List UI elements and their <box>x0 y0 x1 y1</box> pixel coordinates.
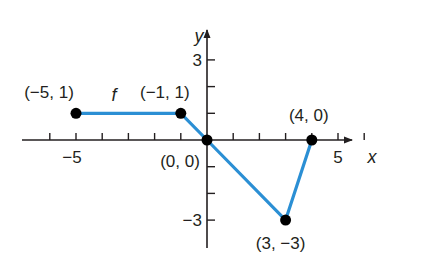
data-point <box>280 215 291 226</box>
x-axis-label: x <box>367 147 378 167</box>
data-point <box>175 108 186 119</box>
data-point <box>306 135 317 146</box>
y-axis-label: y <box>193 26 205 46</box>
data-point <box>71 108 82 119</box>
point-label: (4, 0) <box>289 106 329 125</box>
function-label: f <box>111 85 118 105</box>
y-tick-label: −3 <box>183 211 202 230</box>
x-tick-label: 5 <box>333 148 342 167</box>
data-point <box>202 135 213 146</box>
point-label: (0, 0) <box>160 152 200 171</box>
point-label: (−5, 1) <box>24 83 74 102</box>
y-tick-label: 3 <box>193 51 202 70</box>
point-label: (−1, 1) <box>140 83 190 102</box>
x-tick-label: −5 <box>62 148 81 167</box>
point-label: (3, −3) <box>256 234 306 253</box>
function-graph: −553−3xy(−5, 1)(−1, 1)(0, 0)(3, −3)(4, 0… <box>0 0 423 263</box>
